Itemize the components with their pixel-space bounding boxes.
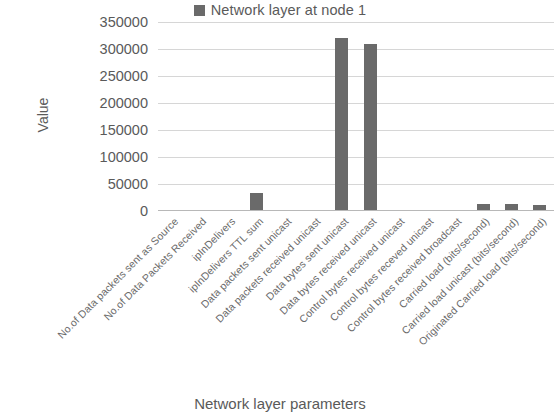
bar-slot xyxy=(497,22,525,211)
y-axis-tick-labels: 0500001000001500002000002500003000003500… xyxy=(58,22,154,211)
bar-slot xyxy=(384,22,412,211)
bar-slot xyxy=(526,22,554,211)
bar-series xyxy=(158,22,554,211)
bar[interactable] xyxy=(335,38,348,211)
bar-slot xyxy=(328,22,356,211)
bar-slot xyxy=(441,22,469,211)
legend-label: Network layer at node 1 xyxy=(211,2,366,18)
bar-slot xyxy=(413,22,441,211)
bar[interactable] xyxy=(250,193,263,211)
y-axis-title-text: Value xyxy=(35,98,51,133)
chart-legend: Network layer at node 1 xyxy=(0,2,560,18)
bar-slot xyxy=(271,22,299,211)
y-axis-tick-label: 150000 xyxy=(100,122,148,138)
x-axis-title: Network layer parameters xyxy=(0,395,560,412)
x-axis-tick-labels: No.of Data packets sent as SourceNo.of D… xyxy=(158,211,554,391)
y-axis-tick-label: 0 xyxy=(140,203,148,219)
bar-slot xyxy=(215,22,243,211)
bar-slot xyxy=(299,22,327,211)
plot-area xyxy=(158,22,554,211)
bar-slot xyxy=(186,22,214,211)
y-axis-tick-label: 350000 xyxy=(100,14,148,30)
y-axis-tick-label: 100000 xyxy=(100,149,148,165)
y-axis-tick-label: 300000 xyxy=(100,41,148,57)
y-axis-tick-label: 250000 xyxy=(100,68,148,84)
y-axis-tick-label: 200000 xyxy=(100,95,148,111)
bar-chart: Network layer at node 1 Value 0500001000… xyxy=(0,0,560,412)
bar[interactable] xyxy=(364,44,377,211)
bar-slot xyxy=(243,22,271,211)
bar-slot xyxy=(158,22,186,211)
y-axis-title: Value xyxy=(33,80,53,150)
legend-swatch-icon xyxy=(194,5,205,16)
bar-slot xyxy=(469,22,497,211)
bar-slot xyxy=(356,22,384,211)
y-axis-tick-label: 50000 xyxy=(108,176,148,192)
